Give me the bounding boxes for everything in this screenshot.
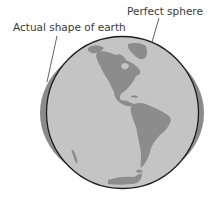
perfect-sphere-label: Perfect sphere	[127, 5, 203, 17]
perfect-sphere-globe	[47, 37, 199, 189]
perfect-sphere-leader-line	[152, 18, 159, 42]
earth-shape-diagram: Actual shape of earth Perfect sphere	[0, 0, 212, 197]
actual-shape-label: Actual shape of earth	[13, 21, 126, 33]
